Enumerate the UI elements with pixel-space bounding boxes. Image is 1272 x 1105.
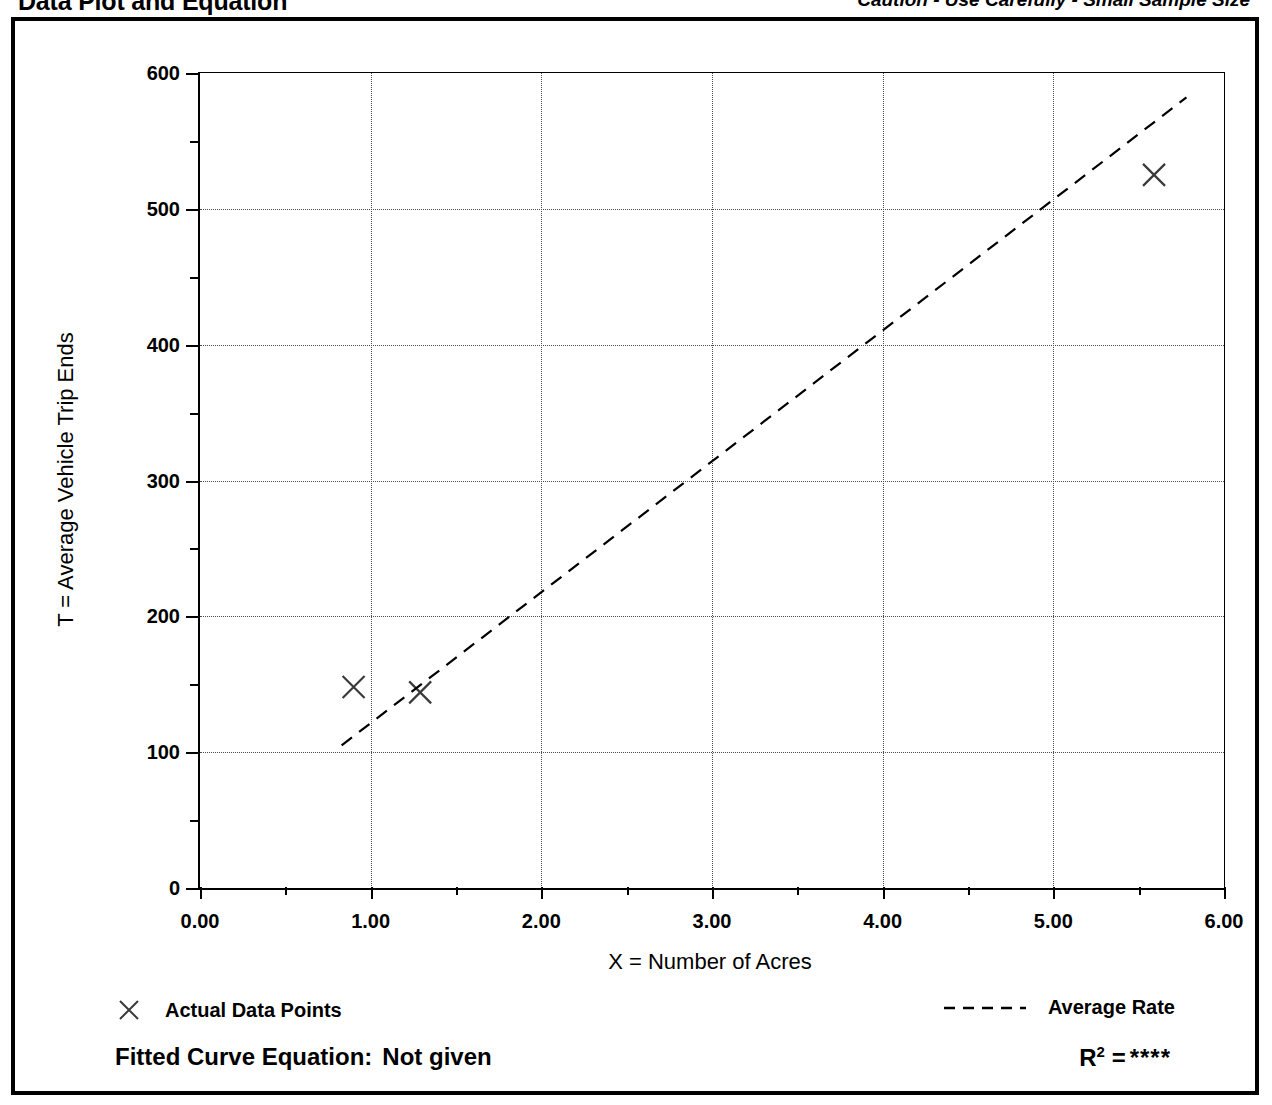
y-axis-minor-tick [190,548,198,550]
y-axis-minor-tick [190,413,198,415]
x-axis-tick-label: 4.00 [863,910,902,933]
x-axis-minor-tick [285,887,287,895]
fitted-equation-value: Not given [382,1043,491,1070]
data-point-marker [1143,164,1165,186]
x-axis-tick-label: 2.00 [522,910,561,933]
y-axis-tick-label: 100 [147,741,180,764]
legend-label-average-rate: Average Rate [1048,996,1175,1019]
x-axis-tick [541,887,543,899]
fitted-equation-label: Fitted Curve Equation: [115,1043,372,1070]
y-axis-tick-label: 500 [147,197,180,220]
page-title: Data Plot and Equation [18,0,287,16]
data-point-marker [343,676,365,698]
x-axis-tick-label: 3.00 [693,910,732,933]
y-axis-tick [186,209,198,211]
y-axis-tick-label: 200 [147,605,180,628]
chart-legend: Actual Data Points Average Rate [15,996,1263,1036]
x-cross-icon [115,996,143,1024]
y-axis-tick-label: 400 [147,333,180,356]
r-squared-exponent: 2 [1097,1043,1105,1060]
dashed-line-icon [942,1002,1028,1014]
r-squared-value: R2 =**** [1079,1043,1171,1072]
x-axis-minor-tick [1139,887,1141,895]
y-axis-tick [186,616,198,618]
y-axis-minor-tick [190,277,198,279]
x-axis-tick-label: 0.00 [181,910,220,933]
r-squared-label: R [1079,1044,1096,1071]
y-axis-tick-label: 600 [147,62,180,85]
chart-panel: T = Average Vehicle Trip Ends 0100200300… [11,17,1259,1095]
x-axis-tick [371,887,373,899]
y-axis-title: T = Average Vehicle Trip Ends [51,72,81,887]
r-squared-equals: = [1112,1044,1126,1071]
page-header: Data Plot and Equation Caution - Use Car… [0,0,1272,17]
y-axis-minor-tick [190,684,198,686]
x-axis-minor-tick [968,887,970,895]
legend-item-actual-data-points: Actual Data Points [115,996,342,1024]
x-axis-tick-label: 1.00 [351,910,390,933]
legend-label-actual-data-points: Actual Data Points [165,999,342,1022]
y-axis-tick [186,345,198,347]
y-axis-tick [186,73,198,75]
x-axis-minor-tick [456,887,458,895]
x-axis-tick [883,887,885,899]
fitted-curve-equation: Fitted Curve Equation:Not given [115,1043,492,1071]
x-axis-title: X = Number of Acres [198,949,1222,975]
y-axis-tick-label: 0 [169,877,180,900]
plot-wrapper: T = Average Vehicle Trip Ends 0100200300… [15,21,1263,1099]
legend-item-average-rate: Average Rate [942,996,1175,1019]
x-axis-tick [1224,887,1226,899]
x-axis-tick-label: 5.00 [1034,910,1073,933]
data-layer [200,73,1224,888]
y-axis-tick-label: 300 [147,469,180,492]
y-axis-tick [186,888,198,890]
x-axis-minor-tick [627,887,629,895]
trendline-average-rate [342,97,1187,745]
caution-note: Caution - Use Carefully - Small Sample S… [857,0,1250,11]
x-axis-tick-label: 6.00 [1205,910,1244,933]
equation-row: Fitted Curve Equation:Not given R2 =**** [15,1043,1263,1088]
x-axis-tick [712,887,714,899]
plot-area: 01002003004005006000.001.002.003.004.005… [198,72,1225,890]
x-axis-tick [1053,887,1055,899]
x-axis-tick [200,887,202,899]
y-axis-tick [186,481,198,483]
r-squared-number: **** [1130,1044,1171,1071]
x-axis-minor-tick [797,887,799,895]
y-axis-minor-tick [190,141,198,143]
y-axis-tick [186,752,198,754]
y-axis-minor-tick [190,820,198,822]
